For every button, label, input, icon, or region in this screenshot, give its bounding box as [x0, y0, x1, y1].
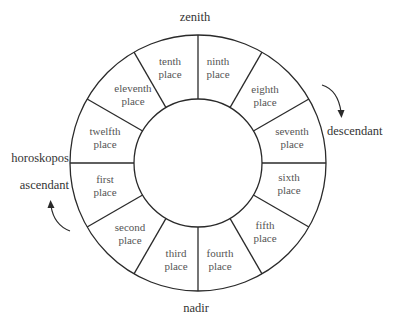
- spokes: [70, 35, 326, 291]
- horoscope-wheel-diagram: firstplace secondplace thirdplace fourth…: [0, 0, 393, 327]
- place-label-eleventh: eleventhplace: [114, 82, 152, 107]
- ascendant-arrow-icon: [48, 200, 71, 231]
- descendant-arrow-icon: [322, 85, 345, 118]
- place-label-sixth: sixthplace: [277, 171, 300, 196]
- descendant-label: descendant: [327, 124, 383, 138]
- place-label-eighth: eighthplace: [251, 83, 279, 108]
- place-label-first: firstplace: [93, 173, 116, 198]
- horoskopos-label: horoskopos: [11, 151, 69, 165]
- place-label-twelfth: twelfthplace: [89, 125, 121, 150]
- place-label-tenth: tenthplace: [158, 55, 181, 80]
- ascendant-label: ascendant: [20, 178, 70, 192]
- place-label-third: thirdplace: [164, 247, 187, 272]
- place-label-fourth: fourthplace: [207, 247, 234, 272]
- place-label-seventh: seventhplace: [275, 125, 309, 150]
- inner-circle: [134, 99, 262, 227]
- place-label-second: secondplace: [115, 221, 146, 246]
- zenith-label: zenith: [180, 10, 211, 24]
- place-label-ninth: ninthplace: [206, 55, 229, 80]
- place-label-fifth: fifthplace: [253, 219, 276, 244]
- nadir-label: nadir: [183, 301, 210, 315]
